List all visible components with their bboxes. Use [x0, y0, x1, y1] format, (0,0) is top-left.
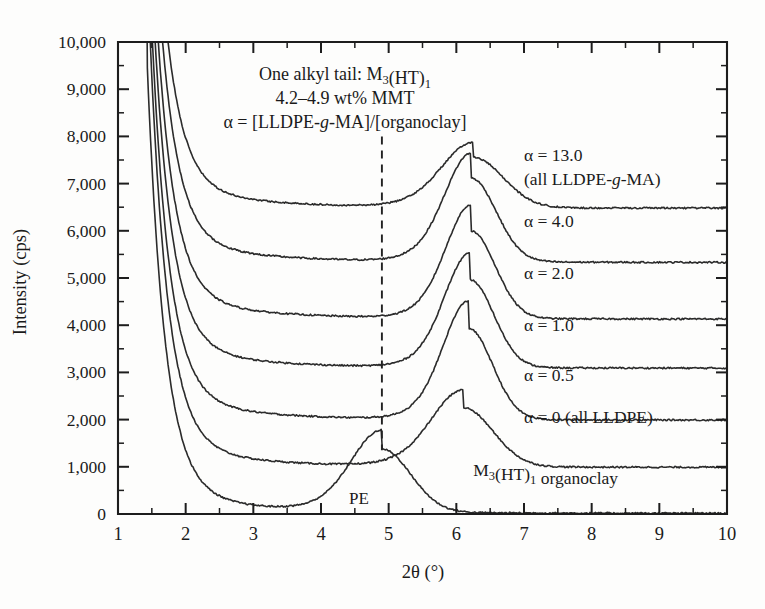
y-tick-label: 8,000	[67, 126, 107, 146]
series-label-alpha-05: α = 0.5	[524, 365, 574, 385]
pe-label: PE	[349, 489, 369, 508]
header-line-3: α = [LLDPE-g-MA]/[organoclay]	[223, 112, 466, 132]
x-tick-label: 6	[452, 524, 461, 544]
xrd-figure: 01,0002,0003,0004,0005,0006,0007,0008,00…	[0, 0, 765, 609]
series-label-alpha-4: α = 4.0	[524, 211, 574, 231]
series-label-alpha-13: α = 13.0	[524, 145, 583, 165]
x-axis-tick-labels: 12345678910	[113, 524, 736, 544]
series-label-alpha-2: α = 2.0	[524, 263, 574, 283]
series-label-organoclay: M3(HT)1 organoclay	[473, 460, 618, 488]
x-axis-title: 2θ (°)	[402, 562, 444, 583]
x-tick-label: 4	[316, 524, 325, 544]
x-tick-label: 3	[249, 524, 258, 544]
x-tick-label: 9	[655, 524, 664, 544]
y-tick-label: 10,000	[58, 32, 106, 52]
y-tick-label: 6,000	[67, 221, 107, 241]
header-line-1: One alkyl tail: M3(HT)1	[259, 64, 431, 91]
x-tick-label: 5	[384, 524, 393, 544]
y-tick-label: 1,000	[67, 457, 107, 477]
y-tick-label: 9,000	[67, 79, 107, 99]
header-line-2: 4.2–4.9 wt% MMT	[276, 88, 415, 108]
series-sublabel-alpha-13: (all LLDPE-g-MA)	[524, 169, 661, 189]
header-annotation-block: One alkyl tail: M3(HT)1 4.2–4.9 wt% MMT …	[223, 64, 466, 132]
trace-alpha-05	[118, 0, 727, 421]
y-axis-title: Intensity (cps)	[10, 229, 31, 335]
series-labels: α = 13.0(all LLDPE-g-MA)α = 4.0α = 2.0α …	[473, 145, 661, 488]
x-tick-label: 10	[718, 524, 737, 544]
y-tick-label: 4,000	[67, 315, 107, 335]
x-tick-label: 7	[519, 524, 528, 544]
x-tick-label: 1	[113, 524, 122, 544]
y-tick-label: 0	[97, 504, 106, 524]
y-tick-label: 3,000	[67, 362, 107, 382]
y-tick-label: 5,000	[67, 268, 107, 288]
series-label-alpha-0: α = 0 (all LLDPE)	[524, 407, 653, 427]
x-tick-label: 2	[181, 524, 190, 544]
y-axis-tick-labels: 01,0002,0003,0004,0005,0006,0007,0008,00…	[58, 32, 106, 524]
x-tick-label: 8	[587, 524, 596, 544]
y-tick-label: 2,000	[67, 410, 107, 430]
series-label-alpha-1: α = 1.0	[524, 315, 574, 335]
xrd-diffraction-chart: 01,0002,0003,0004,0005,0006,0007,0008,00…	[0, 0, 765, 609]
y-tick-label: 7,000	[67, 174, 107, 194]
